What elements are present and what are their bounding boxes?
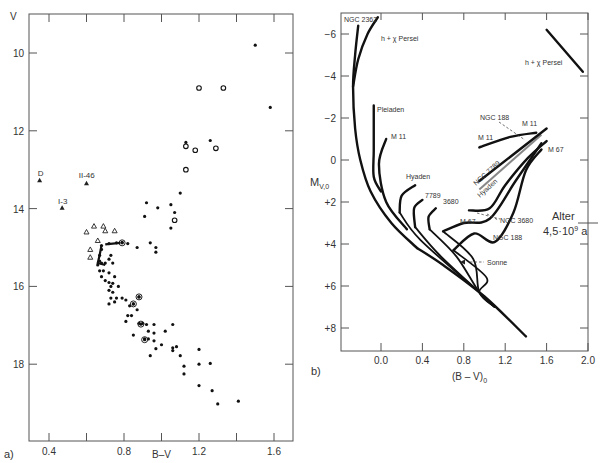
star-open-circle bbox=[184, 144, 189, 149]
star-dot bbox=[136, 246, 139, 249]
label-3680: 3680 bbox=[443, 198, 459, 205]
star-dot bbox=[107, 258, 110, 261]
star-dot bbox=[171, 323, 174, 326]
chart-canvas: 0.40.81.21.6 1012141618 DII-46I-3 V B–V … bbox=[0, 0, 600, 463]
curve-7789 bbox=[414, 200, 423, 227]
label-ngc2362: NGC 2362 bbox=[344, 16, 377, 23]
star-dot bbox=[145, 323, 148, 326]
panel-a-cmd: 0.40.81.21.6 1012141618 DII-46I-3 V B–V … bbox=[4, 11, 293, 460]
star-open-circle bbox=[184, 167, 189, 172]
star-dot bbox=[143, 215, 146, 218]
x-tick-label: 0.4 bbox=[42, 446, 56, 457]
star-open-triangle bbox=[88, 247, 93, 252]
panel-a-y-axis-label: V bbox=[10, 11, 17, 22]
age-annotation-value: 4,5·109 a bbox=[543, 225, 588, 237]
panel-b-label: b) bbox=[311, 365, 321, 377]
curve-ngc-2362 bbox=[353, 26, 417, 249]
star-dot bbox=[121, 296, 124, 299]
panel-a-annotations: DII-46I-3 bbox=[38, 169, 96, 205]
star-open-triangle bbox=[103, 228, 108, 233]
star-dot bbox=[115, 296, 118, 299]
star-dot bbox=[184, 141, 187, 144]
star-dot bbox=[113, 300, 116, 303]
star-dot bbox=[156, 206, 159, 209]
star-dot bbox=[182, 372, 185, 375]
star-dot bbox=[152, 323, 155, 326]
y-tick-label: +4 bbox=[325, 239, 337, 250]
panel-a-frame bbox=[29, 14, 293, 441]
y-tick-label: 0 bbox=[330, 155, 336, 166]
star-dot bbox=[145, 201, 148, 204]
y-tick-label: 16 bbox=[13, 281, 25, 292]
panel-a-x-ticks: 0.40.81.21.6 bbox=[42, 14, 281, 457]
x-tick-label: 0.4 bbox=[415, 355, 429, 366]
star-dot bbox=[149, 354, 152, 357]
label-7789: 7789 bbox=[425, 192, 441, 199]
star-dot bbox=[126, 242, 129, 245]
y-tick-label: −4 bbox=[325, 71, 337, 82]
panel-b-cluster-cmd: 0.00.40.81.21.62.0 −6−4−20+2+4+6+8 NGC 2… bbox=[310, 13, 598, 384]
star-open-triangle bbox=[84, 229, 89, 234]
star-dot bbox=[197, 384, 200, 387]
star-triangle bbox=[60, 205, 65, 210]
star-dot bbox=[107, 302, 110, 305]
label-ngc3680: NGC 3680 bbox=[500, 217, 533, 224]
panel-b-y-ticks: −6−4−20+2+4+6+8 bbox=[325, 29, 588, 334]
star-dot bbox=[152, 339, 155, 342]
star-dot bbox=[109, 254, 112, 257]
panel-a-y-ticks: 1012141618 bbox=[13, 48, 293, 370]
star-dot bbox=[169, 226, 172, 229]
star-dot bbox=[197, 348, 200, 351]
star-dot bbox=[209, 362, 212, 365]
star-dot bbox=[211, 389, 214, 392]
label-m67-top: M 67 bbox=[548, 146, 564, 153]
star-dot bbox=[124, 298, 127, 301]
star-dot bbox=[149, 241, 152, 244]
star-dot bbox=[154, 347, 157, 350]
y-tick-label: 12 bbox=[13, 126, 25, 137]
star-open-circle bbox=[197, 86, 202, 91]
star-dot bbox=[111, 291, 114, 294]
star-dot bbox=[169, 203, 172, 206]
star-dot bbox=[121, 241, 124, 244]
star-dot bbox=[175, 345, 178, 348]
x-tick-label: 1.6 bbox=[540, 355, 554, 366]
y-tick-label: −6 bbox=[325, 29, 337, 40]
ms-strand bbox=[415, 227, 495, 307]
star-dot bbox=[179, 354, 182, 357]
star-dot bbox=[154, 251, 157, 254]
star-dot bbox=[237, 400, 240, 403]
star-dot bbox=[111, 261, 114, 264]
star-open-triangle bbox=[112, 228, 117, 233]
star-dot bbox=[109, 296, 112, 299]
y-tick-label: 14 bbox=[13, 204, 25, 215]
y-tick-label: 10 bbox=[13, 48, 25, 59]
x-tick-label: 2.0 bbox=[581, 355, 595, 366]
star-dot bbox=[269, 106, 272, 109]
star-dot bbox=[107, 289, 110, 292]
star-dot bbox=[100, 275, 103, 278]
curve-h-persei bbox=[353, 17, 378, 86]
panel-a-label: a) bbox=[4, 448, 14, 460]
star-dot bbox=[160, 343, 163, 346]
x-tick-label: 1.2 bbox=[192, 446, 206, 457]
star-label: I-3 bbox=[58, 197, 68, 206]
label-m11-giants: M 11 bbox=[478, 134, 493, 141]
label-m67: M 67 bbox=[460, 218, 476, 225]
star-dot bbox=[132, 302, 135, 305]
star-dot bbox=[130, 314, 133, 317]
curve-hyaden bbox=[400, 185, 416, 212]
star-dot bbox=[109, 285, 112, 288]
x-tick-label: 0.8 bbox=[457, 355, 471, 366]
star-dot bbox=[136, 308, 139, 311]
x-tick-label: 0.8 bbox=[117, 446, 131, 457]
star-open-circle bbox=[193, 148, 198, 153]
star-open-triangle bbox=[92, 224, 97, 229]
label-pleiaden: Pleiaden bbox=[377, 106, 404, 113]
star-dot bbox=[179, 191, 182, 194]
star-dot bbox=[173, 211, 176, 214]
star-dot bbox=[117, 285, 120, 288]
star-dot bbox=[143, 338, 146, 341]
star-dot bbox=[197, 363, 200, 366]
label-h-chi-persei: h + χ Persei bbox=[381, 35, 419, 43]
